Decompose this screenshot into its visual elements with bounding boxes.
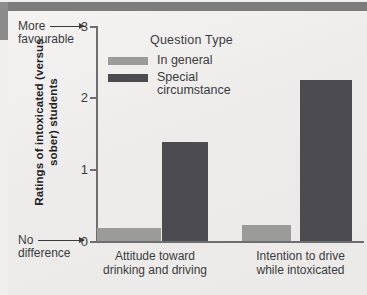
- annotation-no-difference: No difference: [18, 234, 88, 260]
- legend-label-special-circumstance: Special circumstance: [157, 71, 258, 97]
- annotation-more-favourable-line2: favourable: [18, 33, 88, 46]
- x-category-label-intention: Intention to drive while intoxicated: [243, 250, 358, 277]
- bar-special-circumstance-intention: [300, 80, 352, 241]
- y-axis-title: Ratings of intoxicated (versus sober) st…: [32, 32, 60, 212]
- annotation-more-favourable: More favourable: [18, 20, 88, 46]
- y-axis-line: [96, 26, 98, 243]
- bar-in-general-attitude: [97, 228, 161, 241]
- y-tick-3: [90, 26, 96, 28]
- bar-chart: 3 2 1 0 Ratings of intoxicated (versus s…: [0, 0, 367, 295]
- legend-item-in-general: In general: [108, 54, 258, 67]
- arrow-right-icon: [38, 240, 84, 241]
- annotation-no-difference-line2: difference: [18, 247, 88, 260]
- y-tick-1: [90, 169, 96, 171]
- x-axis-line: [96, 241, 364, 243]
- y-tick-2: [90, 97, 96, 99]
- y-tick-label-2: 2: [74, 92, 88, 103]
- legend: Question Type In general Special circums…: [108, 33, 258, 101]
- arrow-right-icon: [50, 26, 84, 27]
- legend-swatch-special-circumstance: [108, 74, 148, 82]
- y-tick-label-1: 1: [74, 164, 88, 175]
- bar-in-general-intention: [242, 225, 291, 241]
- y-tick-0: [90, 241, 96, 243]
- legend-title: Question Type: [150, 33, 258, 47]
- legend-label-in-general: In general: [157, 54, 213, 67]
- bar-special-circumstance-attitude: [162, 142, 208, 241]
- x-category-label-attitude: Attitude toward drinking and driving: [100, 250, 210, 277]
- legend-swatch-in-general: [108, 57, 148, 65]
- legend-item-special-circumstance: Special circumstance: [108, 71, 258, 97]
